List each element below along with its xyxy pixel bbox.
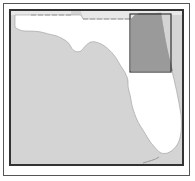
highlight-region-fill [131, 13, 173, 71]
florida-keys [143, 157, 159, 163]
map-svg [11, 11, 182, 164]
locator-map [9, 9, 184, 166]
